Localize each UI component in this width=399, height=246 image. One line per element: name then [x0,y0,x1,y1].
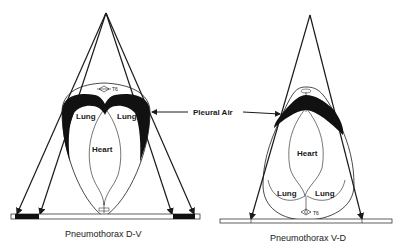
xray-beam-lines [251,15,362,219]
film-plate [11,214,200,219]
heart-label: Heart [92,145,113,154]
lung-label-left: Lung [76,112,96,121]
caption-ventrodorsal: Pneumothorax V-D [270,233,347,243]
panel-dorsoventral: T6 Lung Lung Heart Pneumothorax D-V [11,13,200,239]
heart-label: Heart [297,149,318,158]
heart-outline [89,108,121,205]
pleural-air-pointer: Pleural Air [152,108,280,117]
lung-label-right: Lung [315,189,335,198]
vertebra-icon [97,86,111,92]
pneumothorax-diagram: T6 Lung Lung Heart Pneumothorax D-V Pleu… [0,0,399,246]
film-plate [220,219,392,223]
pleural-air [274,95,343,135]
lung-label-right: Lung [117,112,137,121]
lung-label-left: Lung [277,189,297,198]
pleural-air-label: Pleural Air [193,108,233,117]
panel-ventrodorsal: T6 Heart Lung Lung Pneumothorax V-D [220,15,392,243]
caption-dorsoventral: Pneumothorax D-V [65,229,142,239]
vertebra-label: T6 [112,86,118,92]
vertebra-label: T6 [313,210,319,216]
